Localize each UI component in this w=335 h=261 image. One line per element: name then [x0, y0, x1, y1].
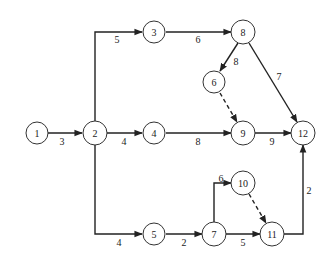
node-1: 1	[26, 122, 48, 144]
svg-text:10: 10	[238, 178, 248, 189]
edge-label-7-11: 5	[241, 237, 246, 248]
node-5: 5	[143, 223, 165, 245]
edge-label-2-5: 4	[117, 237, 122, 248]
edge-7-10	[214, 183, 231, 222]
svg-text:3: 3	[152, 27, 157, 38]
edge-11-12	[284, 145, 303, 234]
node-4: 4	[143, 122, 165, 144]
edge-label-2-3: 5	[115, 34, 120, 45]
edge-label-9-12: 9	[270, 136, 275, 147]
edge-label-11-12: 2	[307, 185, 312, 196]
network-diagram: 3 5 4 4 6 8 7 8 9 2 6 5 2 1	[0, 0, 335, 261]
edge-label-2-4: 4	[122, 136, 127, 147]
node-3: 3	[143, 21, 165, 43]
edge-label-1-2: 3	[60, 136, 65, 147]
edge-2-5	[95, 145, 142, 234]
node-8: 8	[231, 20, 255, 44]
svg-text:7: 7	[212, 229, 217, 240]
node-11: 11	[260, 222, 284, 246]
node-9: 9	[231, 121, 255, 145]
svg-text:1: 1	[35, 128, 40, 139]
edge-label-4-9: 8	[196, 136, 201, 147]
node-2: 2	[83, 121, 107, 145]
svg-text:12: 12	[298, 128, 308, 139]
edge-6-9	[220, 93, 237, 122]
edge-2-3	[95, 32, 142, 121]
node-6: 6	[203, 71, 225, 93]
svg-text:11: 11	[267, 229, 277, 240]
node-12: 12	[291, 121, 315, 145]
edge-label-3-8: 6	[196, 34, 201, 45]
svg-text:9: 9	[241, 128, 246, 139]
node-10: 10	[231, 171, 255, 195]
svg-text:4: 4	[152, 128, 157, 139]
svg-text:2: 2	[93, 128, 98, 139]
edge-8-12	[249, 43, 297, 122]
svg-text:5: 5	[152, 229, 157, 240]
edge-10-11	[249, 194, 266, 223]
edge-label-8-6: 8	[234, 56, 239, 67]
edge-label-8-12: 7	[277, 71, 282, 82]
edge-label-5-7: 2	[182, 237, 187, 248]
node-7: 7	[202, 222, 226, 246]
edge-label-7-10: 6	[219, 173, 224, 184]
svg-text:6: 6	[212, 77, 217, 88]
svg-text:8: 8	[241, 27, 246, 38]
